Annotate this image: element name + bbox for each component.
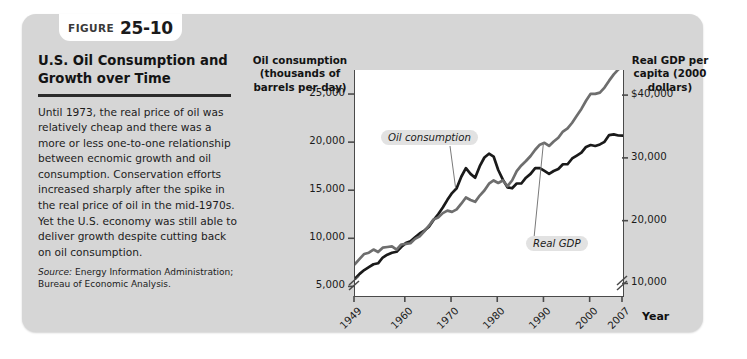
- series-line-real-gdp: [355, 70, 623, 264]
- figure-number: 25-10: [120, 18, 173, 38]
- source-label: Source:: [38, 267, 72, 277]
- series-layer: [355, 70, 623, 296]
- figure-title: U.S. Oil Consumption and Growth over Tim…: [38, 52, 238, 87]
- plot-area: [354, 70, 624, 297]
- x-tick-label: 1990: [524, 305, 553, 334]
- figure-number-tab: FIGURE 25-10: [59, 14, 182, 41]
- x-tick-label: 1970: [432, 305, 461, 334]
- figure-label: FIGURE: [68, 22, 114, 34]
- chart: Oil consumption (thousands of barrels pe…: [244, 42, 714, 332]
- x-tick-label: 1949: [335, 305, 364, 334]
- left-tick-label: 20,000: [309, 135, 345, 146]
- left-tick-label: 5,000: [316, 279, 345, 290]
- figure-source: Source: Energy Information Administratio…: [38, 267, 237, 291]
- right-tick-label: $40,000: [631, 88, 673, 99]
- left-tick-label: 25,000: [309, 87, 345, 98]
- left-tick-label: 15,000: [309, 183, 345, 194]
- x-axis-label: Year: [642, 310, 669, 323]
- right-tick-label: 30,000: [631, 151, 667, 162]
- series-line-oil-consumption: [355, 134, 623, 278]
- callout-oil-consumption: Oil consumption: [381, 130, 478, 145]
- callout-real-gdp: Real GDP: [526, 236, 588, 251]
- figure-description: Until 1973, the real price of oil was re…: [38, 105, 237, 261]
- left-tick-label: 10,000: [309, 231, 345, 242]
- x-tick-label: 1960: [386, 305, 415, 334]
- x-tick-label: 2007: [603, 305, 632, 334]
- figure-card: FIGURE 25-10 U.S. Oil Consumption and Gr…: [22, 14, 703, 332]
- right-tick-label: 20,000: [631, 214, 667, 225]
- x-tick-label: 2000: [570, 305, 599, 334]
- figure-panel: FIGURE 25-10 U.S. Oil Consumption and Gr…: [0, 0, 747, 359]
- right-tick-label: 10,000: [631, 276, 667, 287]
- figure-text-column: U.S. Oil Consumption and Growth over Tim…: [38, 52, 244, 291]
- x-tick-label: 1980: [478, 305, 507, 334]
- title-divider: [38, 94, 231, 97]
